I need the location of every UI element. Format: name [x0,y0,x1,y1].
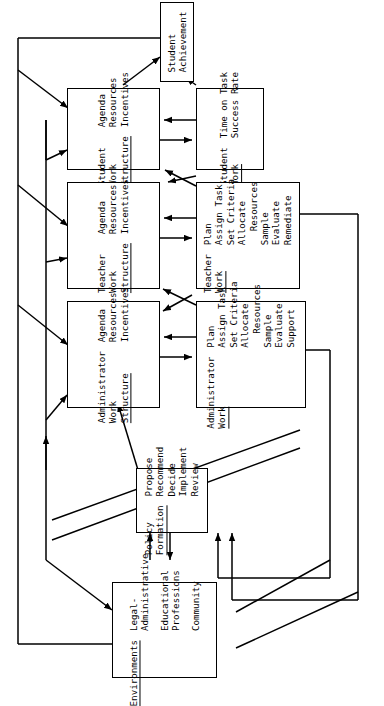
list-item: Decide [166,446,177,496]
arrow-bus-to-aws-a [18,305,68,345]
administrator-work-items: Plan Assign Task Set Criteria Allocate R… [205,281,296,347]
list-item: Resources [107,286,118,341]
header-line: Teacher [96,243,107,293]
list-item: Incentives [119,286,130,341]
student-work-structure-content: Student Work Structure Agenda Resources … [68,89,159,169]
environments-items: Legal- Administrative Educational Profes… [128,554,201,631]
arrow-bus-to-tws-a [18,185,68,226]
student-work-content: Student Work Time on Task Success Rate [197,89,263,169]
aws-content: Administrator Work Structure Agenda Reso… [68,302,159,407]
header-line-underlined: Formation [155,505,167,555]
arrow-studentwork-to-tws [168,176,196,182]
list-item: Implement [178,446,189,496]
sweep-environments-right-a [236,560,330,612]
administrator-work-structure-box[interactable]: Administrator Work Structure Agenda Reso… [67,301,160,408]
list-item: Incentives [119,178,130,233]
list-item: Administrative [139,554,150,631]
list-item: Set Criteria [225,178,236,244]
environments-header: Environments [128,640,140,706]
header-line-underlined: Structure [119,243,131,293]
teacher-work-content: Teacher Work Plan Assign Task Set Criter… [197,183,299,288]
administrator-work-box[interactable]: Administrator Work Plan Assign Task Set … [196,301,306,408]
list-item: Assign Task [217,281,228,347]
header-line: Work [107,243,118,293]
list-item: Agenda [96,72,107,127]
list-item: Recommend [155,446,166,496]
administrator-work-header: Administrator Work [205,356,229,428]
policy-formation-content: Policy Formation Propose Recommend Decid… [137,469,207,532]
arrow-rail2-to-environments [46,560,112,610]
list-item: Resources [107,178,118,233]
list-item: Evaluate [274,281,285,347]
arrow-teacherwork-to-aws [163,295,192,311]
list-item: Resources [107,72,118,127]
header-line: Student [166,12,177,73]
aws-header: Administrator Work Structure [96,351,131,423]
environments-box[interactable]: Environments Legal- Administrative Educa… [112,582,217,678]
policy-header: Policy Formation [143,505,167,555]
teacher-work-structure-box[interactable]: Teacher Work Structure Agenda Resources … [67,182,160,289]
list-item: Agenda [96,286,107,341]
header-line: Administrator [96,351,107,423]
header-line: Policy [143,505,154,555]
list-item: Allocate [240,281,251,347]
list-item: Review [189,446,200,496]
student-work-box[interactable]: Student Work Time on Task Success Rate [196,88,264,170]
aws-items: Agenda Resources Incentives [96,286,130,341]
teacher-work-items: Plan Assign Task Set Criteria Allocate R… [202,178,293,244]
tws-items: Agenda Resources Incentives [96,178,130,233]
list-item: Time on Task [218,72,229,138]
policy-formation-box[interactable]: Policy Formation Propose Recommend Decid… [136,468,208,533]
student-achievement-box[interactable]: Student Achievement [160,2,194,82]
diagram-canvas: Student Achievement Student Work Structu… [0,0,384,706]
student-achievement-content: Student Achievement [161,3,193,81]
teacher-work-structure-content: Teacher Work Structure Agenda Resources … [68,183,159,288]
list-item: Sample [262,281,273,347]
header-line-underlined: Environments [128,640,140,706]
student-work-structure-box[interactable]: Student Work Structure Agenda Resources … [67,88,160,170]
arrow-bus-to-sws-a [18,70,68,108]
list-item: Educational [159,554,170,631]
student-achievement-header: Student Achievement [166,12,189,73]
list-item: Resources [248,178,259,244]
list-item: Legal- [128,554,139,631]
tws-header: Teacher Work Structure [96,243,131,293]
arrow-rail2-to-tws-b [46,258,67,262]
list-item: Remediate [282,178,293,244]
list-item: Allocate [237,178,248,244]
administrator-work-content: Administrator Work Plan Assign Task Set … [197,302,305,407]
list-item: Agenda [96,178,107,233]
header-line: Administrator [205,356,216,428]
list-item: Incentives [119,72,130,127]
list-item: Plan [205,281,216,347]
list-item: Plan [202,178,213,244]
header-line-underlined: Structure [119,373,131,423]
list-item: Support [285,281,296,347]
list-item: Evaluate [271,178,282,244]
header-line: Achievement [177,12,188,73]
list-item: Resources [251,281,262,347]
list-item: Success Rate [230,72,241,138]
teacher-work-box[interactable]: Teacher Work Plan Assign Task Set Criter… [196,182,300,289]
list-item: Professions [170,554,181,631]
policy-items: Propose Recommend Decide Implement Revie… [143,446,200,496]
student-work-items: Time on Task Success Rate [218,72,241,138]
header-line-underlined: Work [217,406,229,428]
arrow-teacherwork-to-sws [165,170,196,186]
list-item: Community [190,554,201,631]
environments-content: Environments Legal- Administrative Educa… [113,583,216,677]
list-item: Propose [143,446,154,496]
sws-items: Agenda Resources Incentives [96,72,130,127]
list-item: Sample [259,178,270,244]
list-item: Assign Task [214,178,225,244]
arrow-rail2-to-aws-b [46,395,67,420]
header-line: Work [107,351,118,423]
arrow-rail2-to-sws-b [46,150,67,160]
list-item: Set Criteria [228,281,239,347]
